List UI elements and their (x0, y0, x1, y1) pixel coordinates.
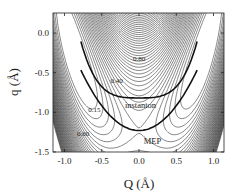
contour-chart: -1.0-0.50.00.51.00.0-0.5-1.0-1.5 0.800.4… (0, 0, 241, 196)
y-tick-label: -0.5 (35, 68, 50, 78)
contour-label: 0.15 (88, 106, 101, 114)
x-tick-label: 0.5 (171, 156, 183, 166)
contour-lines (46, 9, 229, 156)
x-tick-label: 0.0 (133, 156, 145, 166)
contour-label: 0.80 (133, 55, 146, 63)
y-tick-label: 0.0 (38, 28, 50, 38)
y-tick-label: -1.0 (35, 107, 50, 117)
contour-label: 0.40 (111, 77, 124, 85)
x-axis-title: Q (Å) (124, 176, 155, 191)
x-tick-label: 1.0 (208, 156, 220, 166)
contour-label: 0.60 (77, 130, 90, 138)
mep-label: MEP (144, 136, 162, 146)
x-tick-label: -1.0 (57, 156, 72, 166)
instanton-path (81, 42, 197, 99)
y-axis-title: q (Å) (6, 68, 21, 96)
x-tick-label: -0.5 (95, 156, 110, 166)
y-tick-label: -1.5 (35, 147, 50, 157)
instanton-label: instanton (125, 100, 157, 110)
